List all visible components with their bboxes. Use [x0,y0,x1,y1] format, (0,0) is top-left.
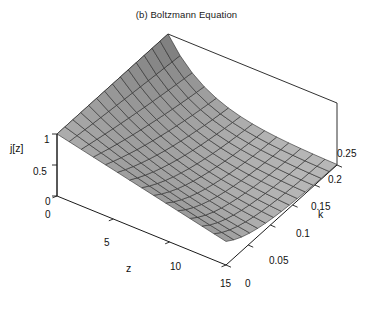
ytick-0p25: 0.25 [337,148,356,159]
ytick-0: 0 [245,278,251,289]
vertical-axis-label: j[z] [10,142,23,154]
ytick-0p05: 0.05 [269,255,288,266]
xtick-15: 15 [220,278,231,289]
xtick-5: 5 [104,237,110,248]
figure-3d-surface-plot: (b) Boltzmann Equation 1 0.5 0 0 5 10 15… [0,0,373,311]
xtick-10: 10 [170,261,181,272]
x-axis-label: z [126,262,131,274]
y-axis-label: k [318,208,323,220]
ztick-1: 1 [44,134,50,145]
xtick-0: 0 [45,209,51,220]
ztick-0: 0 [45,196,51,207]
ytick-0p1: 0.1 [296,228,310,239]
surface-plot-canvas [0,0,373,311]
ztick-0p5: 0.5 [33,166,47,177]
ytick-0p2: 0.2 [328,174,342,185]
